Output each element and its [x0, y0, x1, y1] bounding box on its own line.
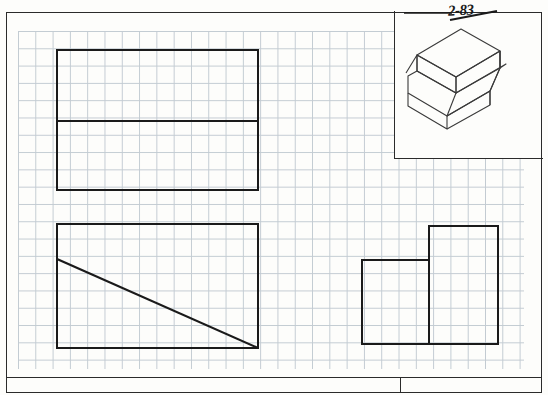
drawing-sheet: 2-83: [0, 0, 548, 395]
pictorial-base-left-face: [408, 93, 447, 129]
drawing-views: [0, 0, 548, 395]
pictorial-upper-top-face: [417, 29, 500, 77]
front-view[interactable]: [57, 224, 258, 348]
isometric-pictorial[interactable]: [406, 29, 506, 129]
pictorial-base-front-face: [447, 91, 490, 129]
pictorial-upper-right-face: [456, 51, 500, 93]
pictorial-base-left-top: [408, 71, 490, 116]
front-view-chamfer-line: [57, 259, 258, 348]
side-view[interactable]: [362, 226, 498, 344]
pictorial-upper-back-edge: [406, 55, 417, 73]
top-view[interactable]: [57, 50, 258, 190]
pictorial-chamfer-edge-a: [447, 93, 456, 116]
revision-label: 2-83: [448, 1, 474, 19]
pictorial-step-face: [417, 51, 506, 93]
front-view-outline: [57, 224, 258, 348]
